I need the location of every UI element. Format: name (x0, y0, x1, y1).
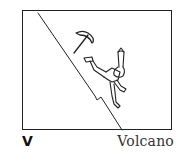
slope-line (38, 13, 122, 130)
climber-figure (84, 48, 126, 108)
ice-axe-icon (74, 31, 93, 53)
card-letter: V (22, 133, 33, 149)
card-word: Volcano (117, 133, 174, 149)
